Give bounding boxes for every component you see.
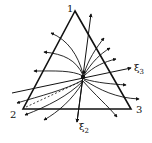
vertex-label-2: 2	[10, 110, 16, 120]
simplex-triangle	[23, 11, 131, 109]
trajectories	[17, 33, 139, 120]
vertex-label-3: 3	[136, 105, 142, 115]
xi2-subscript: 2	[85, 127, 89, 135]
xi3-subscript: 3	[140, 68, 144, 76]
xi3-label: ξ3	[134, 63, 144, 76]
xi3-eigen-line	[12, 68, 131, 93]
equilibrium-node-2	[82, 70, 85, 73]
xi2-label: ξ2	[79, 122, 89, 135]
equilibrium-node	[81, 75, 85, 79]
vertex-label-1: 1	[67, 4, 73, 14]
ternary-diagram	[0, 0, 152, 143]
